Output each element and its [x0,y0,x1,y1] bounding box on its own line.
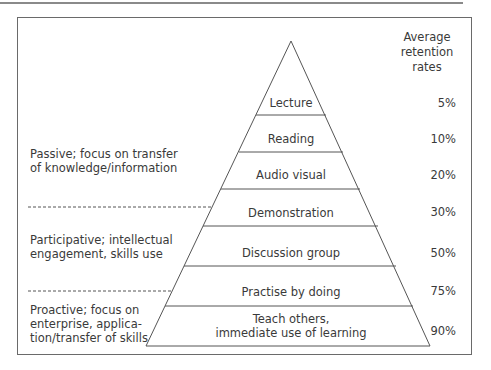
layer-label-line: Teach others, [191,312,391,326]
category-passive: Passive; focus on transfer of knowledge/… [30,147,178,175]
category-line: Passive; focus on transfer [30,147,178,161]
rate-audio-visual: 20% [430,168,456,182]
layer-discussion-group: Discussion group [191,246,391,260]
layer-reading: Reading [191,132,391,146]
category-line: engagement, skills use [30,247,173,261]
layer-demonstration: Demonstration [191,206,391,220]
layer-label-line: immediate use of learning [191,326,391,340]
retention-header: Average retention rates [397,30,457,75]
header-line: Average [397,30,457,45]
rate-practise-by-doing: 75% [430,284,456,298]
layer-practise-by-doing: Practise by doing [191,285,391,299]
layer-lecture: Lecture [191,96,391,110]
rate-demonstration: 30% [430,205,456,219]
category-line: Proactive; focus on [30,303,148,317]
header-line: retention [397,45,457,60]
category-line: Participative; intellectual [30,233,173,247]
rate-lecture: 5% [438,96,456,110]
layer-teach-others: Teach others, immediate use of learning [191,312,391,340]
category-line: tion/transfer of skills [30,331,148,345]
category-participative: Participative; intellectual engagement, … [30,233,173,261]
category-line: enterprise, applica- [30,317,148,331]
rate-reading: 10% [430,132,456,146]
header-line: rates [397,60,457,75]
layer-audio-visual: Audio visual [191,168,391,182]
category-line: of knowledge/information [30,161,178,175]
category-proactive: Proactive; focus on enterprise, applica-… [30,303,148,345]
rate-teach-others: 90% [430,324,456,338]
rate-discussion-group: 50% [430,246,456,260]
